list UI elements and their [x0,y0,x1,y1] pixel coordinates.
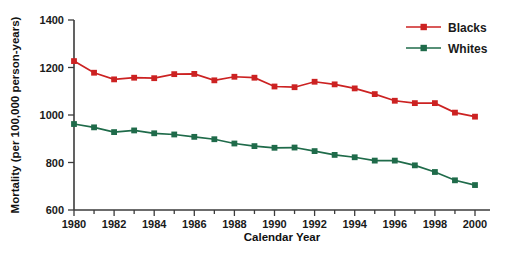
data-point-marker [452,177,458,183]
x-tick-label: 1980 [62,218,86,230]
data-point-marker [171,132,177,138]
data-point-marker [392,98,398,104]
x-tick-label: 1984 [142,218,167,230]
legend-label: Whites [448,42,488,56]
x-tick-label: 1998 [423,218,447,230]
y-tick-label: 800 [46,157,64,169]
data-point-marker [131,75,137,81]
data-point-marker [392,158,398,164]
data-point-marker [191,134,197,140]
y-tick-label: 1000 [40,109,64,121]
data-point-marker [91,124,97,130]
y-axis-title: Mortality (per 100,000 person-years) [9,16,21,213]
data-point-marker [272,145,278,151]
data-point-marker [372,158,378,164]
data-point-marker [151,130,157,136]
x-tick-label: 2000 [463,218,487,230]
data-point-marker [292,145,298,151]
x-axis-title: Calendar Year [244,231,321,243]
data-point-marker [352,154,358,160]
x-tick-label: 1988 [222,218,246,230]
series-blacks [71,58,478,119]
x-axis-group: 1980198219841986198819901992199419961998… [62,210,490,230]
data-point-marker [332,81,338,87]
data-point-marker [432,100,438,106]
y-axis-ticks: 600800100012001400 [40,14,74,216]
y-tick-label: 1200 [40,62,64,74]
chart-legend: BlacksWhites [406,21,488,56]
x-tick-label: 1986 [182,218,206,230]
x-tick-label: 1996 [383,218,407,230]
data-point-marker [232,74,238,80]
data-point-marker [412,100,418,106]
data-point-marker [91,70,97,76]
data-point-marker [312,148,318,154]
data-point-marker [171,71,177,77]
data-point-marker [272,84,278,90]
x-tick-label: 1990 [262,218,286,230]
x-tick-label: 1994 [342,218,367,230]
data-point-marker [111,76,117,82]
data-point-marker [332,152,338,158]
data-point-marker [472,114,478,120]
x-tick-label: 1982 [102,218,126,230]
legend-label: Blacks [448,21,487,35]
mortality-line-chart: 600800100012001400 198019821984198619881… [0,0,514,255]
y-tick-label: 1400 [40,14,64,26]
data-point-marker [211,77,217,83]
data-point-marker [111,129,117,135]
data-point-marker [211,136,217,142]
data-point-marker [71,121,77,127]
legend-marker [421,45,427,51]
data-point-marker [252,143,258,149]
chart-figure: 600800100012001400 198019821984198619881… [0,0,514,255]
data-point-marker [312,79,318,85]
data-point-marker [191,71,197,77]
legend-marker [421,24,427,30]
data-point-marker [71,58,77,64]
data-point-marker [372,91,378,97]
series-whites [71,121,478,188]
data-point-marker [292,84,298,90]
data-point-marker [412,162,418,168]
y-axis-group: 600800100012001400 [40,14,74,216]
data-point-marker [452,110,458,116]
data-point-marker [151,75,157,81]
legend-item-blacks: Blacks [406,21,487,35]
data-series-group [71,58,478,188]
x-tick-label: 1992 [302,218,326,230]
x-axis-ticks: 1980198219841986198819901992199419961998… [62,210,487,230]
data-point-marker [472,182,478,188]
data-point-marker [352,86,358,92]
y-tick-label: 600 [46,204,64,216]
legend-item-whites: Whites [406,42,488,56]
data-point-marker [432,169,438,175]
data-point-marker [232,141,238,147]
data-point-marker [252,75,258,81]
data-point-marker [131,128,137,134]
